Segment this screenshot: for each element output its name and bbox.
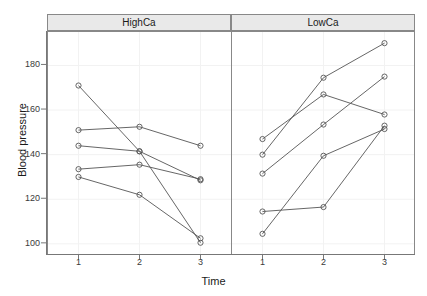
panel-highca-canvas xyxy=(48,32,231,255)
x-axis-tick-label: 2 xyxy=(312,258,336,267)
panel-lowca-canvas xyxy=(232,32,415,255)
x-axis-title: Time xyxy=(0,275,427,287)
panel-highca xyxy=(47,31,231,255)
x-axis-tick-label: 3 xyxy=(189,258,213,267)
x-axis-tick-label: 1 xyxy=(251,258,275,267)
trellis-plot: Blood pressure 100120140160180 HighCa Lo… xyxy=(0,0,427,296)
y-axis-tick-label: 100 xyxy=(12,239,40,248)
y-axis-tick-label: 140 xyxy=(12,150,40,159)
y-axis-tick-label: 180 xyxy=(12,60,40,69)
y-axis-tick-label: 120 xyxy=(12,194,40,203)
panel-lowca xyxy=(231,31,415,255)
strip-label-lowca: LowCa xyxy=(307,17,338,28)
y-axis-tick-labels: 100120140160180 xyxy=(12,0,40,296)
x-axis-tick-label: 1 xyxy=(67,258,91,267)
x-axis-tick-label: 2 xyxy=(128,258,152,267)
strip-header-highca: HighCa xyxy=(47,14,231,31)
strip-label-highca: HighCa xyxy=(122,17,155,28)
strip-header-lowca: LowCa xyxy=(231,14,415,31)
y-axis-tick-label: 160 xyxy=(12,105,40,114)
x-axis-tick-label: 3 xyxy=(373,258,397,267)
x-axis-tick-labels: 123123 xyxy=(0,258,427,272)
